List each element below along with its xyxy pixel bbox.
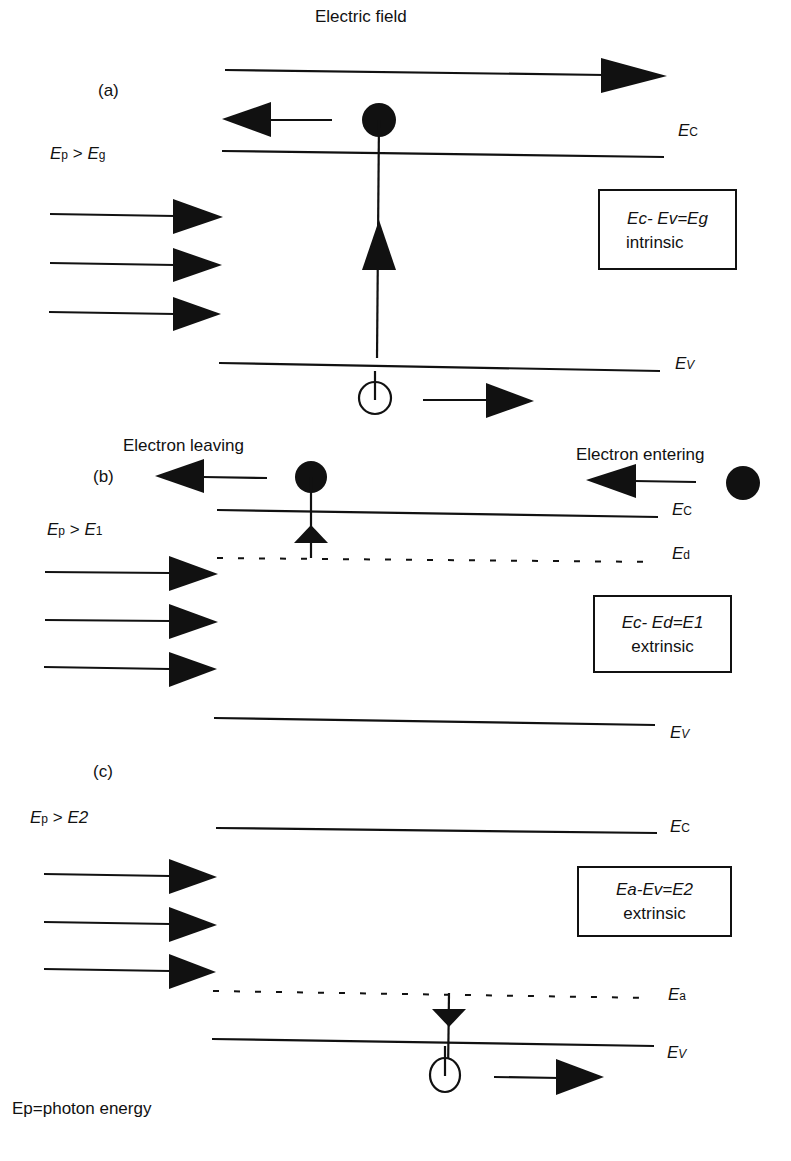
electron-leaving-arrow xyxy=(155,459,267,493)
ec-label-c: EC xyxy=(670,818,690,835)
electron-icon xyxy=(726,466,760,500)
hole-drift-right-arrow xyxy=(494,1059,604,1095)
hole-drift-right-arrow xyxy=(423,383,534,418)
box-equation: Ec- Ed=E1 xyxy=(595,613,730,633)
electron-entering-arrow xyxy=(586,464,696,498)
box-type: intrinsic xyxy=(600,233,761,253)
photon-arrow-icon xyxy=(49,297,221,331)
photon-arrow-icon xyxy=(45,604,218,639)
photon-arrow-icon xyxy=(44,859,217,894)
transition-up-arrow-icon xyxy=(294,525,328,543)
electric-field-arrow xyxy=(225,58,667,93)
electron-entering-label: Electron entering xyxy=(576,446,705,463)
box-type: extrinsic xyxy=(595,637,730,657)
valence-band-line-c xyxy=(212,1039,654,1046)
transition-up-arrow-icon xyxy=(362,220,396,270)
panel-c-label: (c) xyxy=(93,763,113,780)
ev-label-b: EV xyxy=(670,724,689,741)
ev-label-a: EV xyxy=(675,355,694,372)
box-type: extrinsic xyxy=(579,904,730,924)
photon-arrow-icon xyxy=(44,907,217,942)
panel-c-equation-box: Ea-Ev=E2 extrinsic xyxy=(577,866,732,937)
box-equation: Ea-Ev=E2 xyxy=(579,880,730,900)
photon-arrow-icon xyxy=(50,248,222,282)
box-equation: Ec- Ev=Eg xyxy=(600,209,735,229)
photon-energy-note: Ep=photon energy xyxy=(12,1100,151,1117)
valence-band-line-b xyxy=(214,718,655,725)
ev-label-c: EV xyxy=(667,1044,686,1061)
donor-level-line xyxy=(217,558,658,562)
panel-a-condition: Ep > Eg xyxy=(50,145,105,162)
electric-field-label: Electric field xyxy=(315,8,407,25)
panel-b-condition: Ep > E1 xyxy=(47,521,102,538)
electron-drift-left-arrow xyxy=(222,102,332,137)
panel-b-equation-box: Ec- Ed=E1 extrinsic xyxy=(593,595,732,673)
ea-label: Ea xyxy=(668,986,686,1003)
photon-arrow-icon xyxy=(50,199,223,234)
panel-a-equation-box: Ec- Ev=Eg intrinsic xyxy=(598,189,737,270)
ec-label-a: EC xyxy=(678,122,698,139)
ec-label-b: EC xyxy=(672,501,692,518)
photon-arrow-icon xyxy=(44,652,217,687)
valence-band-line-a xyxy=(219,363,660,371)
transition-down-arrow-icon xyxy=(432,1009,466,1027)
conduction-band-line-b xyxy=(217,510,658,517)
photon-arrow-icon xyxy=(44,954,216,989)
acceptor-level-line xyxy=(213,991,652,998)
ed-label: Ed xyxy=(672,545,690,562)
photon-arrow-icon xyxy=(45,556,218,591)
panel-b-label: (b) xyxy=(93,468,114,485)
electron-leaving-label: Electron leaving xyxy=(123,437,244,454)
panel-c-condition: Ep > E2 xyxy=(30,809,88,826)
conduction-band-line-c xyxy=(216,828,657,833)
conduction-band-line-a xyxy=(222,151,664,157)
panel-a-label: (a) xyxy=(98,82,119,99)
